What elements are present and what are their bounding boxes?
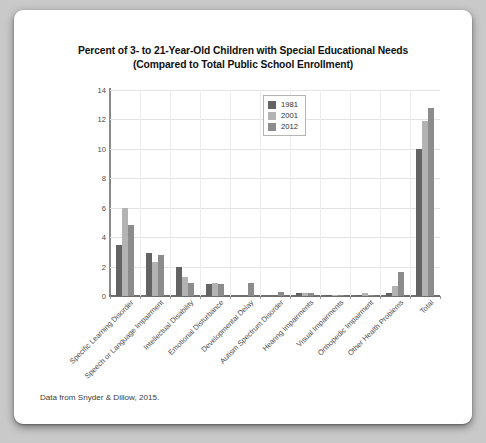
legend-entry: 2012: [268, 121, 298, 132]
legend-label: 1981: [281, 100, 298, 109]
bar: [308, 293, 314, 296]
legend-swatch: [268, 101, 276, 109]
legend-swatch: [268, 112, 276, 120]
y-axis-tick-label: 6: [82, 203, 106, 212]
x-axis-tick-mark: [410, 296, 411, 299]
y-axis-tick-label: 10: [82, 144, 106, 153]
bar: [128, 225, 134, 296]
x-axis-label: Developmental Delay: [199, 298, 255, 354]
legend-entry: 1981: [268, 99, 298, 110]
bar-group: [140, 90, 170, 296]
bar-group: [110, 90, 140, 296]
chart-title: Percent of 3- to 21-Year-Old Children wi…: [14, 44, 472, 71]
x-axis-tick-mark: [200, 296, 201, 299]
y-axis-tick-label: 8: [82, 174, 106, 183]
bar-group: [200, 90, 230, 296]
x-axis-tick-mark: [260, 296, 261, 299]
y-axis-tick-label: 12: [82, 115, 106, 124]
x-axis-tick-mark: [380, 296, 381, 299]
chart-title-line-2: (Compared to Total Public School Enrollm…: [14, 58, 472, 72]
bar-group: [230, 90, 260, 296]
x-axis-tick-mark: [140, 296, 141, 299]
legend-label: 2012: [281, 122, 298, 131]
chart-title-line-1: Percent of 3- to 21-Year-Old Children wi…: [14, 44, 472, 58]
bar: [398, 272, 404, 296]
bar-group: [410, 90, 440, 296]
legend-entry: 2001: [268, 110, 298, 121]
bar: [218, 284, 224, 296]
bar: [278, 292, 284, 296]
x-axis-label: Hearing Impairments: [260, 298, 315, 353]
x-axis-label: Total: [418, 298, 435, 315]
y-axis-tick-label: 14: [82, 86, 106, 95]
y-axis-tick-label: 4: [82, 233, 106, 242]
bar-group: [170, 90, 200, 296]
bar-group: [320, 90, 350, 296]
x-axis-tick-mark: [290, 296, 291, 299]
x-axis-tick-mark: [110, 296, 111, 299]
x-axis-tick-mark: [320, 296, 321, 299]
bar: [368, 295, 374, 296]
chart-card: Percent of 3- to 21-Year-Old Children wi…: [14, 10, 472, 424]
x-axis-tick-mark: [230, 296, 231, 299]
chart-caption: Data from Snyder & Dillow, 2015.: [40, 393, 159, 402]
x-axis-label: Emotional Disturbance: [166, 298, 225, 357]
x-axis-tick-mark: [350, 296, 351, 299]
bar: [188, 283, 194, 296]
bar: [158, 255, 164, 296]
x-axis-tick-mark: [440, 296, 441, 299]
legend-swatch: [268, 123, 276, 131]
x-axis-label: Orthopedic Impairment: [316, 298, 376, 358]
bar: [248, 283, 254, 296]
y-axis-tick-label: 0: [82, 292, 106, 301]
y-axis-tick-label: 2: [82, 262, 106, 271]
bar: [338, 295, 344, 296]
bar: [428, 108, 434, 296]
chart-legend: 198120012012: [263, 95, 306, 136]
legend-label: 2001: [281, 111, 298, 120]
bar-group: [380, 90, 410, 296]
x-axis-label: Other Health Problems: [346, 298, 406, 358]
bar-group: [350, 90, 380, 296]
x-axis-tick-mark: [170, 296, 171, 299]
